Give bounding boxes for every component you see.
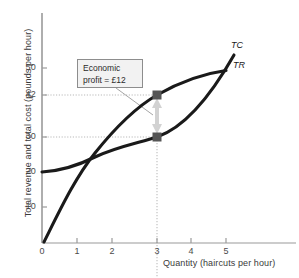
x-axis-title: Quantity (haircuts per hour) <box>163 258 275 268</box>
tr-point-marker-at-q3 <box>153 91 162 100</box>
x-tick-label-3: 3 <box>147 246 167 256</box>
tc-point-marker-at-q3 <box>153 133 162 142</box>
economic-profit-callout-box: Economic profit = £12 <box>77 59 143 88</box>
tr-curve-label: TR <box>233 60 245 70</box>
callout-line-1: Economic <box>83 63 138 75</box>
x-tick-label-5: 5 <box>216 246 236 256</box>
tr-curve <box>44 71 226 243</box>
callout-line-2: profit = £12 <box>83 75 138 87</box>
tc-curve-label: TC <box>231 40 243 50</box>
x-tick-label-4: 4 <box>181 246 201 256</box>
y-axis-title: Total revenue and total cost (pounds per… <box>23 18 33 228</box>
x-tick-label-1: 1 <box>67 246 87 256</box>
x-axis-ticks <box>77 238 226 243</box>
chart-plot-area <box>0 0 299 278</box>
x-tick-label-2: 2 <box>102 246 122 256</box>
economics-total-revenue-total-cost-chart: 10 20 30 42 50 0 1 2 3 4 5 Total revenue… <box>0 0 299 278</box>
x-tick-label-0: 0 <box>32 246 52 256</box>
economic-profit-arrow <box>152 98 162 134</box>
